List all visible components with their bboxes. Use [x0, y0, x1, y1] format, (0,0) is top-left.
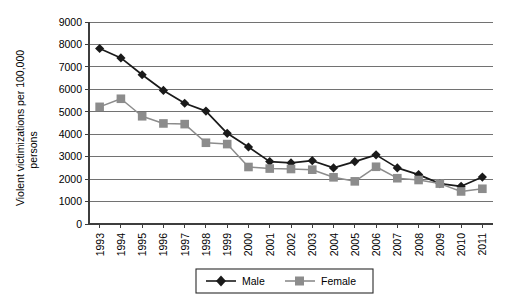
y-tick-label-8000: 8000 [59, 38, 83, 50]
data-point-female-2011 [478, 184, 487, 193]
data-point-female-2007 [393, 174, 402, 183]
x-tick-label-2008: 2008 [413, 233, 425, 257]
line-chart: 9000800070006000500040003000200010000 19… [0, 0, 509, 303]
data-point-female-1993 [95, 103, 104, 112]
data-point-female-2005 [350, 177, 359, 186]
data-point-female-1996 [159, 119, 168, 128]
data-point-female-1997 [180, 120, 189, 129]
y-axis-ticks: 9000800070006000500040003000200010000 [59, 16, 89, 230]
x-tick-label-2004: 2004 [328, 233, 340, 257]
data-point-female-2006 [372, 162, 381, 171]
data-point-female-1998 [202, 138, 211, 147]
y-tick-label-0: 0 [76, 218, 82, 230]
x-tick-label-1999: 1999 [221, 233, 233, 257]
data-point-female-2000 [244, 163, 253, 172]
data-point-female-2002 [287, 165, 296, 174]
x-tick-label-1995: 1995 [136, 233, 148, 257]
y-tick-label-5000: 5000 [59, 106, 83, 118]
y-tick-label-3000: 3000 [59, 150, 83, 162]
legend-entry-female: Female [285, 275, 356, 287]
y-tick-label-2000: 2000 [59, 173, 83, 185]
data-point-female-1995 [138, 112, 147, 121]
x-tick-label-1994: 1994 [115, 233, 127, 257]
x-tick-label-2010: 2010 [455, 233, 467, 257]
y-tick-label-1000: 1000 [59, 195, 83, 207]
data-point-female-2004 [329, 173, 338, 182]
y-tick-label-6000: 6000 [59, 83, 83, 95]
chart-container: 9000800070006000500040003000200010000 19… [0, 0, 509, 303]
data-point-female-2003 [308, 165, 317, 174]
y-axis-title-text-line1: Violent victimizations per 100,000 [14, 50, 26, 206]
x-tick-label-2000: 2000 [242, 233, 254, 257]
x-tick-label-1996: 1996 [157, 233, 169, 257]
data-point-female-2010 [457, 187, 466, 196]
chart-legend: Male Female [196, 269, 373, 293]
x-tick-label-2002: 2002 [285, 233, 297, 257]
x-tick-label-2001: 2001 [264, 233, 276, 257]
x-tick-label-1993: 1993 [94, 233, 106, 257]
x-tick-label-1998: 1998 [200, 233, 212, 257]
legend-label-female: Female [321, 275, 356, 287]
y-tick-label-4000: 4000 [59, 128, 83, 140]
y-tick-label-9000: 9000 [59, 16, 83, 28]
x-tick-label-2007: 2007 [391, 233, 403, 257]
data-point-female-2008 [414, 176, 423, 185]
data-point-female-1994 [117, 94, 126, 103]
data-point-female-2009 [436, 179, 445, 188]
x-tick-label-2006: 2006 [370, 233, 382, 257]
y-tick-label-7000: 7000 [59, 61, 83, 73]
legend-label-male: Male [242, 275, 265, 287]
data-point-female-2001 [265, 164, 274, 173]
x-tick-label-2005: 2005 [349, 233, 361, 257]
plot-background [89, 22, 493, 224]
x-tick-label-2003: 2003 [306, 233, 318, 257]
x-tick-label-1997: 1997 [179, 233, 191, 257]
x-tick-label-2011: 2011 [476, 233, 488, 256]
y-axis-title-text-line2: persons [27, 131, 39, 168]
y-axis-title: Violent victimizations per 100,000 perso… [14, 50, 39, 206]
square-marker-icon [295, 277, 304, 286]
data-point-female-1999 [223, 140, 232, 149]
x-tick-label-2009: 2009 [434, 233, 446, 257]
x-axis-ticks: 1993199419951996199719981999200020012002… [94, 224, 489, 256]
